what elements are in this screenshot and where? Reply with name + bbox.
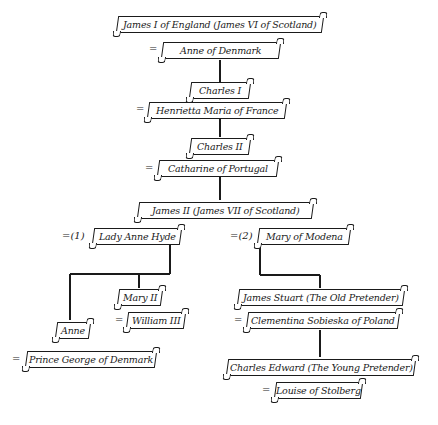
- person-catharine-of-portugal: Catharine of Portugal: [157, 160, 279, 177]
- person-name: Charles Edward (The Young Pretender): [230, 362, 413, 373]
- marriage-mark: =: [262, 384, 270, 395]
- person-prince-george: Prince George of Denmark: [25, 351, 157, 368]
- person-name: James II (James VII of Scotland): [152, 205, 299, 216]
- person-name: Mary of Modena: [266, 231, 343, 242]
- marriage-mark: =: [145, 162, 153, 173]
- person-name: James I of England (James VI of Scotland…: [123, 19, 316, 30]
- person-name: Charles II: [197, 141, 243, 152]
- person-charles-ii: Charles II: [189, 138, 251, 155]
- person-anne-of-denmark: Anne of Denmark: [161, 42, 281, 59]
- person-lady-anne-hyde: Lady Anne Hyde: [92, 228, 182, 245]
- person-louise-of-stolberg: Louise of Stolberg: [274, 382, 363, 399]
- person-william-iii: William III: [126, 312, 186, 329]
- person-name: Henrietta Maria of France: [156, 105, 278, 116]
- person-name: Catharine of Portugal: [168, 163, 268, 174]
- person-name: Mary II: [123, 292, 157, 303]
- person-name: William III: [132, 315, 181, 326]
- marriage-mark: =: [136, 103, 144, 114]
- person-clementina-sobieska: Clementina Sobieska of Poland: [246, 312, 400, 329]
- person-name: Prince George of Denmark: [29, 354, 153, 365]
- person-name: Lady Anne Hyde: [99, 231, 176, 242]
- person-james-stuart: James Stuart (The Old Pretender): [237, 289, 405, 306]
- family-tree-diagram: James I of England (James VI of Scotland…: [0, 0, 438, 425]
- person-name: James Stuart (The Old Pretender): [243, 292, 399, 303]
- person-name: Louise of Stolberg: [276, 385, 361, 396]
- person-henrietta-maria: Henrietta Maria of France: [147, 102, 287, 119]
- marriage-mark-first: =(1): [62, 230, 85, 241]
- marriage-mark-second: =(2): [230, 230, 253, 241]
- person-name: Clementina Sobieska of Poland: [251, 315, 395, 326]
- person-james-ii: James II (James VII of Scotland): [137, 202, 314, 219]
- person-name: Anne of Denmark: [180, 45, 261, 56]
- person-charles-i: Charles I: [189, 82, 251, 99]
- person-mary-of-modena: Mary of Modena: [257, 228, 351, 245]
- person-mary-ii: Mary II: [117, 289, 163, 306]
- person-charles-edward: Charles Edward (The Young Pretender): [226, 359, 416, 376]
- marriage-mark: =: [149, 43, 157, 54]
- person-name: Anne: [61, 325, 85, 336]
- marriage-mark: =: [234, 314, 242, 325]
- person-james-i: James I of England (James VI of Scotland…: [116, 16, 324, 33]
- person-anne: Anne: [55, 322, 91, 339]
- marriage-mark: =: [12, 353, 20, 364]
- person-name: Charles I: [199, 85, 241, 96]
- marriage-mark: =: [115, 314, 123, 325]
